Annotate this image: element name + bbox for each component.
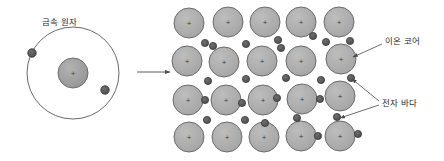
ion-core-charge: +: [263, 18, 268, 27]
ion-core-charge: +: [226, 18, 231, 27]
free-electron: [273, 94, 280, 101]
ion-core-charge: +: [299, 18, 304, 27]
ion-core-charge: +: [338, 132, 343, 141]
ion-core-charge: +: [338, 92, 343, 101]
callout-arrow-electron-sea-upper: [352, 79, 379, 101]
ion-core-charge: +: [262, 133, 267, 142]
metallic-bonding-diagram: + ++++++++++++++++++++ 금속 원자 이온 코어 전자 바다: [0, 0, 444, 161]
free-electron: [242, 40, 249, 47]
ion-core: +: [174, 8, 204, 38]
label-electron-sea: 전자 바다: [382, 99, 417, 108]
free-electron: [282, 74, 289, 81]
ion-core: +: [325, 81, 355, 111]
ion-core: +: [174, 122, 204, 152]
ion-core-charge: +: [339, 55, 344, 64]
ion-core: +: [247, 46, 277, 76]
ion-core-charge: +: [222, 58, 227, 67]
ion-core: +: [326, 44, 356, 74]
free-electron: [242, 75, 249, 82]
free-electron: [209, 42, 216, 49]
label-ion-core: 이온 코어: [385, 37, 420, 46]
ion-core: +: [325, 121, 355, 151]
ion-core-charge: +: [185, 57, 190, 66]
ion-core: +: [248, 85, 278, 115]
ion-core-charge: +: [300, 95, 305, 104]
free-electron: [241, 116, 248, 123]
free-electron: [354, 130, 361, 137]
free-electron: [317, 76, 324, 83]
free-electron: [203, 116, 210, 123]
ion-core: +: [286, 121, 316, 151]
free-electron: [201, 96, 208, 103]
ion-core: +: [213, 7, 243, 37]
free-electron: [238, 99, 245, 106]
ion-core-charge: +: [261, 96, 266, 105]
ion-core: +: [324, 7, 354, 37]
ion-core-charge: +: [337, 18, 342, 27]
metal-atom-group: +: [27, 27, 119, 119]
free-electron: [322, 38, 329, 45]
atom-valence-electron: [101, 86, 109, 94]
ion-core-charge: +: [225, 133, 230, 142]
free-electron: [346, 37, 353, 44]
ion-core-charge: +: [260, 57, 265, 66]
callout-arrow-ion-core: [353, 44, 382, 57]
ion-core-charge: +: [186, 96, 191, 105]
ion-core: +: [287, 84, 317, 114]
ion-core-charge: +: [224, 96, 229, 105]
free-electron: [274, 36, 281, 43]
ion-core: +: [209, 47, 239, 77]
free-electron: [261, 119, 268, 126]
ion-core: +: [286, 46, 316, 76]
ion-core-charge: +: [187, 19, 192, 28]
metal-lattice-group: ++++++++++++++++++++: [172, 7, 362, 152]
free-electron: [333, 113, 340, 120]
ion-core: +: [250, 7, 280, 37]
ion-core: +: [211, 85, 241, 115]
ion-core: +: [172, 46, 202, 76]
free-electron: [316, 95, 323, 102]
free-electron: [204, 77, 211, 84]
ion-core: +: [173, 85, 203, 115]
free-electron: [277, 44, 284, 51]
ion-core: +: [212, 122, 242, 152]
free-electron: [201, 39, 208, 46]
atom-valence-electron: [28, 49, 36, 57]
free-electron: [293, 114, 300, 121]
label-metal-atom: 금속 원자: [42, 18, 77, 27]
ion-core-charge: +: [187, 133, 192, 142]
free-electron: [314, 132, 321, 139]
atom-nucleus-charge: +: [71, 69, 76, 78]
free-electron: [309, 32, 316, 39]
ion-core-charge: +: [299, 57, 304, 66]
ion-core-charge: +: [299, 132, 304, 141]
